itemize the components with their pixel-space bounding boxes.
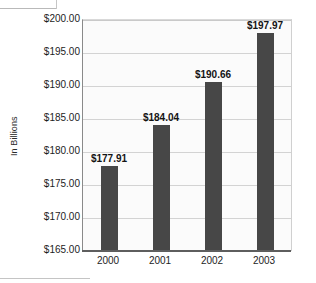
bar — [101, 166, 118, 251]
bar-chart: In Billions $200.00$195.00$190.00$185.00… — [0, 0, 316, 283]
plot-area: $177.91$184.04$190.66$197.97 — [82, 19, 292, 251]
plot-inner: $177.91$184.04$190.66$197.97 — [83, 20, 291, 251]
bar-value-label: $184.04 — [133, 112, 189, 123]
bar-value-label: $177.91 — [81, 153, 137, 164]
y-axis-tick-label: $170.00 — [22, 212, 80, 222]
bar-value-label: $190.66 — [185, 69, 241, 80]
x-axis-tick-labels: 2000200120022003 — [82, 255, 291, 271]
y-axis-tick-label: $165.00 — [22, 245, 80, 255]
bar-value-label: $197.97 — [237, 20, 293, 31]
y-axis-tick-label: $190.00 — [22, 80, 80, 90]
x-axis-tick-label: 2000 — [84, 255, 132, 267]
y-axis-tick-label: $175.00 — [22, 179, 80, 189]
bar — [257, 33, 274, 251]
y-axis-title: In Billions — [6, 96, 22, 176]
x-axis-tick-label: 2003 — [240, 255, 288, 267]
y-axis-tick-label: $195.00 — [22, 47, 80, 57]
bar — [153, 125, 170, 251]
x-axis-line — [82, 250, 291, 252]
y-axis-tick-label: $185.00 — [22, 113, 80, 123]
y-axis-tick-labels: $200.00$195.00$190.00$185.00$180.00$175.… — [22, 14, 80, 250]
x-axis-tick-label: 2001 — [136, 255, 184, 267]
y-axis-tick-label: $180.00 — [22, 146, 80, 156]
x-axis-tick-label: 2002 — [188, 255, 236, 267]
y-axis-tick-label: $200.00 — [22, 14, 80, 24]
bar — [205, 82, 222, 251]
